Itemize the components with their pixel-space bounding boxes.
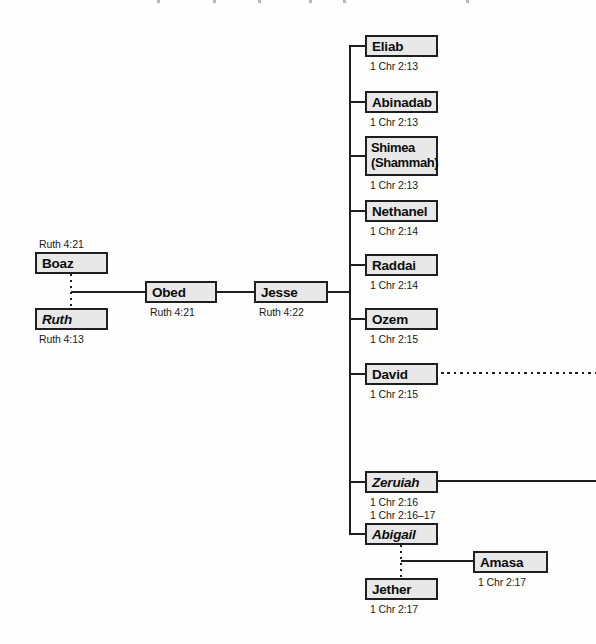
branch-david: [349, 373, 365, 375]
person-box-jether: Jether: [365, 578, 438, 600]
branch-zeruiah: [349, 481, 365, 483]
person-box-eliab: Eliab: [365, 35, 438, 57]
person-box-nethanel: Nethanel: [365, 200, 438, 222]
person-box-abigail: Abigail: [365, 523, 438, 545]
branch-abigail: [349, 533, 365, 535]
ref-amasa: 1 Chr 2:17: [478, 576, 526, 588]
ref-raddai: 1 Chr 2:14: [370, 279, 418, 291]
person-box-boaz: Boaz: [35, 252, 108, 274]
cropped-text-remnant: [213, 0, 216, 3]
person-box-david: David: [365, 363, 438, 385]
ref-ozem: 1 Chr 2:15: [370, 333, 418, 345]
ref-david: 1 Chr 2:15: [370, 388, 418, 400]
ref-nethanel: 1 Chr 2:14: [370, 225, 418, 237]
person-box-raddai: Raddai: [365, 254, 438, 276]
person-box-shimea: Shimea (Shammah): [365, 136, 438, 176]
cropped-text-remnant: [466, 0, 469, 3]
branch-abinadab: [349, 101, 365, 103]
person-box-abinadab: Abinadab: [365, 91, 438, 113]
ref-boaz: Ruth 4:21: [39, 238, 84, 250]
person-box-zeruiah: Zeruiah: [365, 471, 438, 493]
branch-eliab: [349, 45, 365, 47]
ref-zeruiah: 1 Chr 2:16: [370, 496, 418, 508]
descent-line-to-obed: [71, 291, 145, 293]
branch-shimea: [349, 155, 365, 157]
ref-abinadab: 1 Chr 2:13: [370, 116, 418, 128]
ref-jesse: Ruth 4:22: [259, 306, 304, 318]
cropped-text-remnant: [157, 0, 160, 3]
descent-line-to-amasa: [401, 560, 473, 562]
ref-abigail: 1 Chr 2:16–17: [370, 509, 435, 521]
cropped-text-remnant: [258, 0, 261, 3]
person-box-amasa: Amasa: [473, 551, 548, 573]
person-box-obed: Obed: [145, 281, 217, 303]
ref-jether: 1 Chr 2:17: [370, 603, 418, 615]
genealogy-diagram: Ruth 4:21 Boaz Ruth Ruth 4:13 Obed Ruth …: [0, 0, 596, 644]
descent-line-jesse-to-spine: [328, 291, 351, 293]
cropped-text-remnant: [343, 0, 346, 3]
person-box-ozem: Ozem: [365, 308, 438, 330]
david-continuation-dotted-line: [441, 372, 596, 374]
person-box-ruth: Ruth: [35, 308, 108, 330]
branch-nethanel: [349, 210, 365, 212]
ref-obed: Ruth 4:21: [150, 306, 195, 318]
descent-line-obed-jesse: [217, 291, 254, 293]
cropped-text-remnant: [309, 0, 312, 3]
zeruiah-continuation-line: [438, 480, 596, 482]
branch-ozem: [349, 318, 365, 320]
ref-ruth: Ruth 4:13: [39, 333, 84, 345]
ref-shimea: 1 Chr 2:13: [370, 179, 418, 191]
ref-eliab: 1 Chr 2:13: [370, 60, 418, 72]
branch-raddai: [349, 264, 365, 266]
person-box-jesse: Jesse: [254, 281, 328, 303]
children-spine: [349, 45, 351, 535]
